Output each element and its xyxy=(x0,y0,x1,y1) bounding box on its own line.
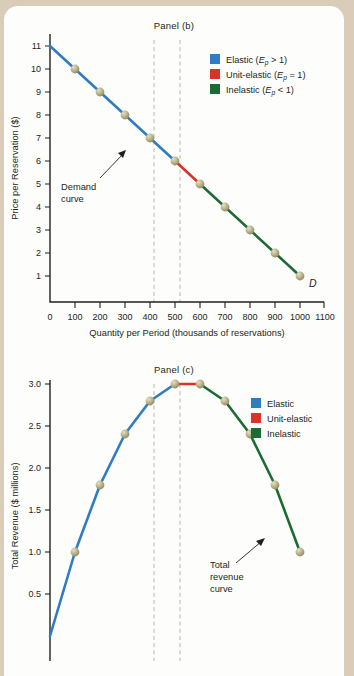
panel-b-xtick-100: 100 xyxy=(67,312,82,322)
panel-c-legend-swatch-elastic xyxy=(251,398,261,408)
panel-b-x-axis-label: Quantity per Period (thousands of reserv… xyxy=(89,328,284,338)
panel-b-legend-swatch-unit-elastic xyxy=(210,69,220,79)
panel-b-xtick-1100: 1100 xyxy=(315,312,334,322)
panel-b-xtick-300: 300 xyxy=(117,312,132,322)
panel-c-segment-elastic xyxy=(50,384,175,636)
panel-b-xtick-700: 700 xyxy=(217,312,232,322)
panel-b-xtick-1000: 1000 xyxy=(290,312,310,322)
panel-b-segment-elastic xyxy=(50,46,175,161)
panel-b-y-ticklabels: 11 10 9 8 7 6 5 4 3 2 1 xyxy=(31,41,41,281)
panel-c-legend-label-inelastic: Inelastic xyxy=(267,429,301,439)
panel-b-ytick-2: 2 xyxy=(36,248,41,258)
panel-b-segment-unit-elastic xyxy=(175,161,200,184)
panel-c-legend-label-elastic: Elastic xyxy=(267,399,294,409)
panel-b-legend-swatch-inelastic xyxy=(210,84,220,94)
panel-b-y-axis-label: Price per Reservation ($) xyxy=(10,116,20,219)
panel-c-ytick-20: 2.0 xyxy=(28,463,41,473)
panel-b-legend: Elastic (Ep > 1) Unit-elastic (Ep = 1) I… xyxy=(210,54,306,97)
panel-c-y-ticklabels: 3.0 2.5 2.0 1.5 1.0 0.5 xyxy=(28,379,41,599)
panel-b-xtick-0: 0 xyxy=(47,312,52,322)
panel-b-annotation-leader xyxy=(100,153,124,178)
panel-b-y-ticks xyxy=(45,46,50,276)
panel-c-ytick-30: 3.0 xyxy=(28,379,41,389)
panel-b-ytick-3: 3 xyxy=(36,225,41,235)
panel-b-ytick-10: 10 xyxy=(31,64,41,74)
panel-c-ytick-10: 1.0 xyxy=(28,547,41,557)
panel-b-xtick-800: 800 xyxy=(242,312,257,322)
panel-c-ytick-15: 1.5 xyxy=(28,505,41,515)
panel-c-ytick-05: 0.5 xyxy=(28,589,41,599)
panel-b-ytick-5: 5 xyxy=(36,179,41,189)
panel-c-annotation-line2: revenue xyxy=(210,572,244,582)
panel-c-ytick-25: 2.5 xyxy=(28,421,41,431)
panel-b-ytick-1: 1 xyxy=(36,271,41,281)
panel-b-annotation-line2: curve xyxy=(61,194,84,204)
panel-b-xtick-400: 400 xyxy=(142,312,157,322)
figure-card: Panel (b) 11 xyxy=(4,6,344,676)
panel-b-xtick-200: 200 xyxy=(92,312,107,322)
panel-b-x-ticks xyxy=(75,302,324,308)
panel-c-legend-swatch-unit-elastic xyxy=(251,413,261,423)
panel-b-ytick-11: 11 xyxy=(32,41,41,51)
panel-b-curve-label-d: D xyxy=(309,277,317,289)
panel-c-legend-label-unit-elastic: Unit-elastic xyxy=(267,414,313,424)
panel-c-y-axis-label: Total Revenue ($ millions) xyxy=(10,463,20,570)
panel-b-ytick-8: 8 xyxy=(36,110,41,120)
panel-c-legend-swatch-inelastic xyxy=(251,428,261,438)
panel-b-legend-label-elastic: Elastic (Ep > 1) xyxy=(226,55,287,67)
panel-c-y-ticks xyxy=(45,384,50,594)
panel-b-annotation-line1: Demand xyxy=(61,182,96,192)
panel-c-annotation-line3: curve xyxy=(210,584,233,594)
panel-c-legend: Elastic Unit-elastic Inelastic xyxy=(251,398,313,439)
panel-b-xtick-600: 600 xyxy=(192,312,207,322)
panel-b-ytick-7: 7 xyxy=(36,133,41,143)
panel-c-annotation-line1: Total xyxy=(210,560,230,570)
panel-b-ytick-6: 6 xyxy=(36,156,41,166)
panel-b-legend-label-unit-elastic: Unit-elastic (Ep = 1) xyxy=(226,70,306,82)
panel-b-legend-label-inelastic: Inelastic (Ep < 1) xyxy=(226,85,294,97)
panel-c-chart: 3.0 2.5 2.0 1.5 1.0 0.5 Total Revenue ($… xyxy=(4,356,344,661)
panel-b-ytick-9: 9 xyxy=(36,87,41,97)
panel-b-x-ticklabels: 0 100 200 300 400 500 600 700 800 900 10… xyxy=(47,312,334,322)
panel-b-xtick-900: 900 xyxy=(267,312,282,322)
panel-b-annotation-arrowhead xyxy=(118,150,126,158)
panel-c-annotation-leader xyxy=(236,541,262,563)
panel-b-legend-swatch-elastic xyxy=(210,54,220,64)
panel-b-ytick-4: 4 xyxy=(36,202,41,212)
panel-b-xtick-500: 500 xyxy=(167,312,182,322)
panel-c-segment-inelastic xyxy=(200,384,300,552)
panel-b-chart: 11 10 9 8 7 6 5 4 3 2 1 0 xyxy=(4,6,344,346)
